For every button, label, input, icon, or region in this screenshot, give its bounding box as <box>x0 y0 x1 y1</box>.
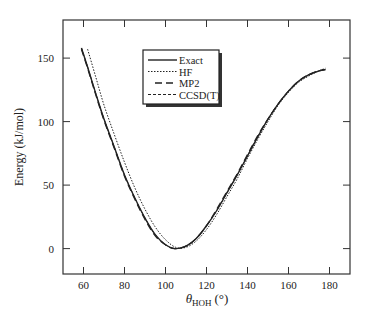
legend-label: HF <box>179 67 193 78</box>
y-axis-label: Energy (kJ/mol) <box>12 108 26 186</box>
legend: ExactHFMP2CCSD(T) <box>143 50 222 107</box>
legend-label: MP2 <box>179 78 199 89</box>
x-tick-label: 60 <box>78 279 90 291</box>
x-tick-label: 80 <box>119 279 131 291</box>
x-tick-label: 180 <box>321 279 338 291</box>
x-tick-label: 140 <box>239 279 256 291</box>
y-tick-label: 0 <box>49 243 55 255</box>
y-tick-label: 150 <box>38 52 55 64</box>
x-tick-label: 100 <box>157 279 174 291</box>
legend-label: CCSD(T) <box>179 90 220 102</box>
energy-angle-chart: 6080100120140160180050100150 ExactHFMP2C… <box>0 0 367 323</box>
x-axis-label-subscript: HOH <box>192 298 212 308</box>
x-tick-label: 120 <box>198 279 215 291</box>
y-tick-label: 50 <box>43 179 55 191</box>
legend-label: Exact <box>179 55 203 66</box>
x-axis-label-unit: (°) <box>215 291 229 306</box>
y-tick-label: 100 <box>38 116 55 128</box>
x-axis-label: θHOH(°) <box>186 291 229 308</box>
x-tick-label: 160 <box>280 279 297 291</box>
